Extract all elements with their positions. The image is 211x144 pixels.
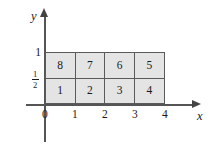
y-axis-arrow-icon bbox=[40, 8, 48, 17]
grid-row-top: 8 7 6 5 bbox=[46, 53, 164, 78]
coordinate-grid-figure: y x 1 1 2 0 1 2 3 4 8 7 6 5 1 2 3 4 bbox=[0, 0, 211, 144]
grid-cell: 3 bbox=[104, 79, 134, 104]
fraction-denominator: 2 bbox=[33, 81, 37, 90]
x-axis-label: x bbox=[197, 110, 203, 123]
grid-row-bottom: 1 2 3 4 bbox=[46, 78, 164, 104]
grid-cell: 1 bbox=[46, 79, 75, 104]
x-tick-label-1: 1 bbox=[68, 109, 82, 121]
grid-cell: 5 bbox=[134, 53, 164, 78]
grid-cell: 2 bbox=[75, 79, 105, 104]
grid-cell: 6 bbox=[104, 53, 134, 78]
x-tick-label-3: 3 bbox=[128, 109, 142, 121]
y-axis-label: y bbox=[31, 10, 37, 23]
x-tick-label-2: 2 bbox=[98, 109, 112, 121]
grid-cell: 8 bbox=[46, 53, 75, 78]
x-axis-arrow-icon bbox=[192, 100, 201, 108]
x-tick-label-0: 0 bbox=[38, 109, 52, 121]
y-tick-label-1: 1 bbox=[30, 47, 41, 59]
x-tick-label-4: 4 bbox=[158, 109, 172, 121]
grid-cell: 7 bbox=[75, 53, 105, 78]
grid-cell: 4 bbox=[134, 79, 164, 104]
fraction-numerator: 1 bbox=[33, 70, 37, 79]
cell-grid: 8 7 6 5 1 2 3 4 bbox=[45, 52, 165, 104]
y-tick-label-one-half: 1 2 bbox=[29, 70, 41, 89]
x-axis-line bbox=[26, 104, 194, 106]
